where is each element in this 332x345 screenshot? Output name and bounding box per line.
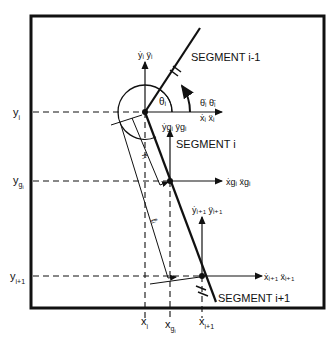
label-joint-i-horizontal: ẋᵢ ẍᵢ — [200, 113, 214, 123]
label-com-horizontal: ẋgᵢ ẍgᵢ — [226, 177, 250, 187]
label-x-gi: xgi — [165, 318, 176, 334]
label-x-i: xi — [141, 315, 149, 330]
label-y-i: yi — [13, 106, 21, 121]
label-joint-i1-horizontal: ẋᵢ₊₁ ẍᵢ₊₁ — [264, 272, 294, 282]
label-joint-i1-vertical: ẏᵢ₊₁ ÿᵢ₊₁ — [192, 205, 222, 215]
label-segment-next: SEGMENT i+1 — [218, 292, 290, 304]
frame-border — [31, 16, 324, 308]
angular-arrow — [182, 86, 190, 112]
label-y-gi: ygi — [13, 174, 24, 190]
label-joint-i-vertical: ẏᵢ ÿᵢ — [138, 50, 152, 60]
label-angle: θᵢ — [159, 96, 167, 107]
label-l: ℓᵢ — [149, 217, 160, 224]
label-x-i1: xi+1 — [199, 315, 214, 330]
label-segment-prev: SEGMENT i-1 — [191, 51, 260, 63]
label-angular: θ̇ᵢ θ̈ᵢ — [200, 98, 216, 108]
label-y-i1: yi+1 — [10, 270, 25, 285]
segment-diagram: SEGMENT i-1 SEGMENT i SEGMENT i+1 yi ygi… — [0, 0, 332, 345]
segment-prev-line — [145, 28, 200, 112]
label-segment-current: SEGMENT i — [176, 138, 236, 150]
label-com-vertical: ẏgᵢ ÿgᵢ — [162, 122, 186, 132]
